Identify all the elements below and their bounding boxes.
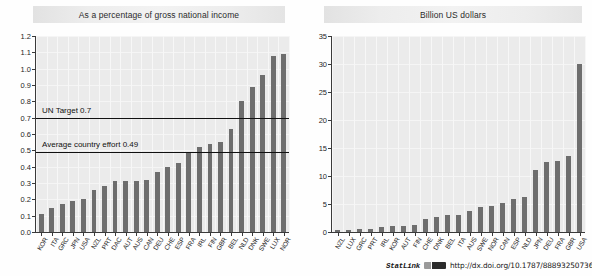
y-tick-label-right: 10	[319, 172, 327, 181]
bar-irl	[197, 147, 202, 232]
bar-gbr	[566, 156, 571, 232]
gridline-vertical	[184, 36, 185, 232]
statlink-url[interactable]: http://dx.doi.org/10.1787/888932507369	[450, 261, 592, 270]
bar-esp	[176, 163, 181, 232]
statlink-source[interactable]: StatLink http://dx.doi.org/10.1787/88893…	[386, 261, 592, 270]
statlink-label: StatLink	[386, 262, 420, 270]
panel-title-left: As a percentage of gross national income	[79, 10, 239, 20]
y-tick-label-left: 0.1	[21, 211, 31, 220]
gridline-vertical	[420, 36, 421, 232]
bar-nld	[522, 197, 527, 232]
bar-can	[500, 203, 505, 232]
bar-fra	[555, 161, 560, 232]
y-tick-label-right: 5	[323, 200, 327, 209]
bar-swe	[260, 75, 265, 232]
bar-nzl	[92, 190, 97, 232]
bar-nor	[281, 54, 286, 232]
plot-wrap-right: 05101520253035 NZLLUXGRCPRTIRLKORAUTFINC…	[304, 36, 586, 236]
bar-can	[144, 180, 149, 232]
bar-grc	[60, 204, 65, 232]
gridline-horizontal	[332, 36, 585, 37]
gridline-horizontal	[332, 92, 585, 93]
bar-bel	[445, 215, 450, 232]
x-tick-label-nzl: NZL	[90, 236, 102, 250]
bar-dnk	[434, 217, 439, 232]
x-tick-label-kor: KOR	[36, 236, 49, 252]
bar-prt	[102, 186, 107, 232]
bar-fin	[208, 144, 213, 232]
y-tick-label-right: 20	[319, 116, 327, 125]
bar-swe	[478, 207, 483, 232]
gridline-horizontal	[332, 148, 585, 149]
gridline-vertical	[110, 36, 111, 232]
plot-area-right	[331, 36, 585, 233]
gridline-vertical	[343, 36, 344, 232]
y-tick-label-left: 1.2	[21, 32, 31, 41]
gridline-vertical	[236, 36, 237, 232]
y-tick-mark	[328, 232, 332, 233]
gridline-vertical	[431, 36, 432, 232]
y-tick-label-left: 0.2	[21, 195, 31, 204]
bar-fin	[412, 225, 417, 232]
y-tick-label-right: 0	[323, 228, 327, 237]
bar-che	[165, 167, 170, 232]
gridline-vertical	[365, 36, 366, 232]
gridline-vertical	[215, 36, 216, 232]
y-tick-label-right: 30	[319, 60, 327, 69]
y-tick-label-left: 0.8	[21, 97, 31, 106]
gridline-vertical	[89, 36, 90, 232]
gridline-horizontal	[332, 64, 585, 65]
plot-area-left: UN Target 0.7Average country effort 0.49	[35, 36, 289, 233]
gridline-horizontal	[332, 120, 585, 121]
y-tick-label-left: 0.0	[21, 228, 31, 237]
x-tick-label-bel: BEL	[227, 236, 239, 250]
statlink-glyph-icon	[424, 262, 446, 269]
gridline-vertical	[131, 36, 132, 232]
y-tick-label-left: 0.9	[21, 81, 31, 90]
gridline-vertical	[541, 36, 542, 232]
bar-aus	[134, 181, 139, 232]
y-tick-label-left: 0.4	[21, 162, 31, 171]
gridline-vertical	[508, 36, 509, 232]
x-tick-label-aut: AUT	[399, 236, 412, 251]
gridline-vertical	[354, 36, 355, 232]
gridline-vertical	[205, 36, 206, 232]
x-tick-label-usa: USA	[574, 236, 587, 251]
gridline-vertical	[475, 36, 476, 232]
panel-title-bar-left: As a percentage of gross national income	[33, 6, 285, 23]
bar-deu	[155, 172, 160, 232]
y-tick-label-left: 0.5	[21, 146, 31, 155]
gridline-vertical	[497, 36, 498, 232]
gridline-vertical	[68, 36, 69, 232]
gridline-vertical	[453, 36, 454, 232]
chart-panel-left: As a percentage of gross national income…	[0, 0, 296, 276]
gridline-vertical	[226, 36, 227, 232]
gridline-vertical	[57, 36, 58, 232]
bar-aut	[123, 181, 128, 232]
un-target-line	[36, 118, 289, 119]
x-tick-label-nld: NLD	[520, 236, 533, 251]
y-tick-label-left: 0.7	[21, 113, 31, 122]
bar-esp	[511, 199, 516, 232]
bar-usa	[81, 199, 86, 232]
gridline-vertical	[552, 36, 553, 232]
bar-usa	[577, 64, 582, 232]
gridline-vertical	[563, 36, 564, 232]
gridline-vertical	[120, 36, 121, 232]
gridline-vertical	[173, 36, 174, 232]
un-target-line-label: UN Target 0.7	[42, 106, 91, 115]
y-tick-label-left: 1.1	[21, 48, 31, 57]
gridline-vertical	[47, 36, 48, 232]
gridline-vertical	[257, 36, 258, 232]
gridline-vertical	[141, 36, 142, 232]
gridline-vertical	[486, 36, 487, 232]
gridline-vertical	[464, 36, 465, 232]
gridline-vertical	[278, 36, 279, 232]
y-tick-label-right: 25	[319, 88, 327, 97]
gridline-vertical	[163, 36, 164, 232]
gridline-vertical	[519, 36, 520, 232]
x-tick-label-bel: BEL	[443, 236, 455, 250]
x-tick-label-nzl: NZL	[333, 236, 345, 250]
gridline-vertical	[78, 36, 79, 232]
bar-ita	[456, 215, 461, 232]
